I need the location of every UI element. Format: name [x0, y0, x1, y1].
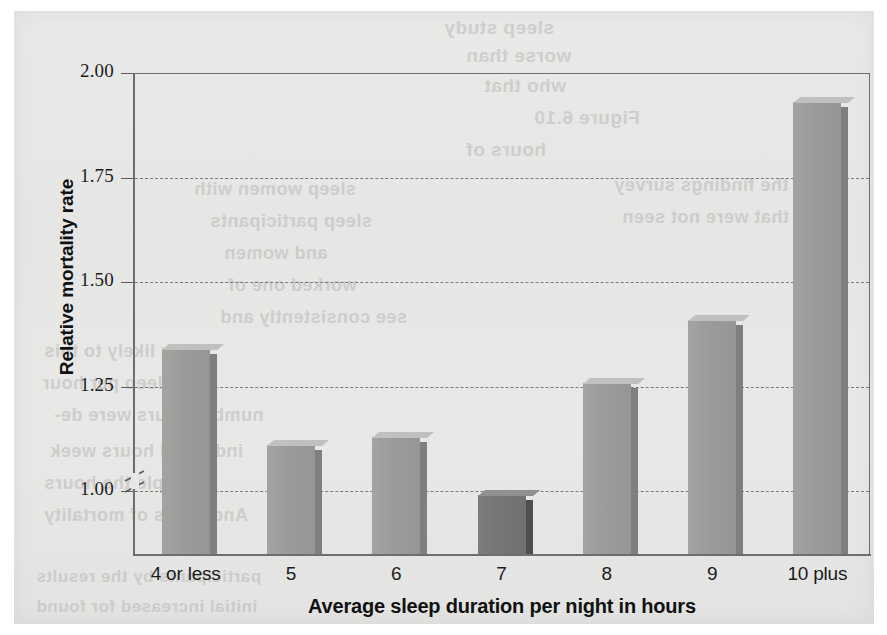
y-axis-tick-label: 2.00: [42, 60, 114, 82]
y-axis-tick-label: 1.50: [42, 269, 114, 291]
bar-side-face: [420, 442, 427, 554]
bar-side-face: [631, 388, 638, 554]
bleed-through-text: sleep study: [444, 17, 554, 39]
y-axis-tick-label: 1.00: [42, 478, 114, 500]
bar-top-face: [793, 97, 855, 103]
x-axis-line: [133, 554, 871, 556]
y-axis-title: Relative mortality rate: [56, 112, 78, 442]
scanned-page: sleep study worse than who that Figure 6…: [0, 0, 887, 635]
bar-side-face: [210, 354, 217, 554]
x-axis-tick-label: 7: [449, 563, 554, 585]
x-axis-tick-label: 8: [554, 563, 659, 585]
bar: [793, 102, 841, 554]
gridline: [135, 178, 869, 179]
bar: [162, 349, 210, 554]
bar: [688, 320, 736, 554]
gridline: [135, 387, 869, 388]
y-axis-tick-label: 1.25: [42, 374, 114, 396]
bar-side-face: [736, 325, 743, 554]
x-axis-tick-label: 6: [344, 563, 449, 585]
bar: [267, 445, 315, 554]
x-axis-tick-label: 10 plus: [765, 563, 870, 585]
paper-panel: sleep study worse than who that Figure 6…: [14, 11, 874, 624]
x-axis-tick-label: 4 or less: [133, 563, 238, 585]
bar-top-face: [583, 378, 645, 384]
bar-top-face: [372, 432, 434, 438]
bar: [478, 495, 526, 554]
x-axis-tick-label: 9: [659, 563, 764, 585]
y-axis-tick-label: 1.75: [42, 165, 114, 187]
bar: [372, 437, 420, 554]
bar-top-face: [688, 315, 750, 321]
bleed-through-text: worse than: [466, 45, 571, 67]
bar-side-face: [315, 450, 322, 554]
bar-top-face: [162, 344, 224, 350]
bar: [583, 383, 631, 554]
bar-top-face: [267, 440, 329, 446]
bar-side-face: [841, 107, 848, 554]
bar-top-face: [478, 490, 540, 496]
bar-side-face: [526, 500, 533, 554]
axis-break-icon: [124, 466, 146, 498]
gridline: [135, 282, 869, 283]
x-axis-title: Average sleep duration per night in hour…: [133, 595, 871, 618]
plot-frame: [133, 73, 870, 555]
x-axis-tick-label: 5: [238, 563, 343, 585]
